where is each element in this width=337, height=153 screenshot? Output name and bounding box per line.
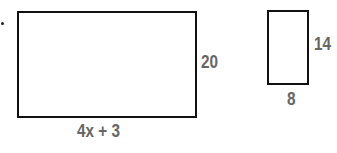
small-rectangle: [267, 10, 309, 85]
large-rectangle: [17, 11, 197, 118]
small-rectangle-width-label: 8: [287, 89, 296, 110]
large-rectangle-width-label: 4x + 3: [77, 121, 120, 142]
small-rectangle-height-label: 14: [314, 34, 331, 55]
bullet-marker: [1, 22, 4, 25]
large-rectangle-height-label: 20: [201, 52, 218, 73]
